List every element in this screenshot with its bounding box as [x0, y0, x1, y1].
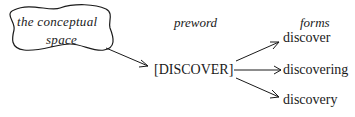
concept-label-line2: space [46, 32, 77, 48]
arrow-to-discovery [236, 78, 279, 97]
arrow-to-discover [236, 42, 279, 61]
form-discover: discover [283, 30, 330, 46]
header-preword: preword [174, 15, 217, 31]
header-forms: forms [300, 15, 330, 31]
form-discovering: discovering [283, 62, 348, 78]
arrow-concept-to-preword [106, 48, 148, 66]
concept-label-line1: the conceptual [17, 14, 97, 30]
preword-discover: [DISCOVER] [154, 62, 233, 78]
form-discovery: discovery [283, 92, 337, 108]
